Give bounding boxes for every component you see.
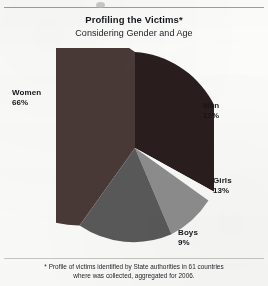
scan-smudge — [96, 2, 105, 8]
pie-label-men-pct: 12% — [203, 111, 219, 121]
pie-label-boys-pct: 9% — [178, 238, 198, 248]
figure-page: Profiling the Victims* Considering Gende… — [0, 0, 268, 286]
top-divider — [4, 7, 264, 8]
footnote-line-2: where was collected, aggregated for 2006… — [14, 272, 254, 281]
bottom-divider — [4, 258, 264, 259]
pie-label-girls-name: Girls — [213, 176, 232, 185]
pie-chart — [56, 48, 214, 248]
pie-label-boys: Boys 9% — [178, 228, 198, 248]
footnote-line-1: * Profile of victims identified by State… — [44, 263, 223, 270]
chart-title: Profiling the Victims* — [0, 14, 268, 26]
pie-label-women: Women 66% — [12, 88, 41, 108]
pie-label-girls-pct: 13% — [213, 186, 232, 196]
pie-label-girls: Girls 13% — [213, 176, 232, 196]
pie-label-men-name: Men — [203, 101, 219, 110]
chart-title-block: Profiling the Victims* Considering Gende… — [0, 14, 268, 39]
chart-footnote: * Profile of victims identified by State… — [14, 263, 254, 280]
pie-label-boys-name: Boys — [178, 228, 198, 237]
chart-subtitle: Considering Gender and Age — [0, 27, 268, 39]
pie-label-women-name: Women — [12, 88, 41, 97]
pie-chart-svg — [56, 48, 214, 248]
pie-label-women-pct: 66% — [12, 98, 41, 108]
pie-label-men: Men 12% — [203, 101, 219, 121]
